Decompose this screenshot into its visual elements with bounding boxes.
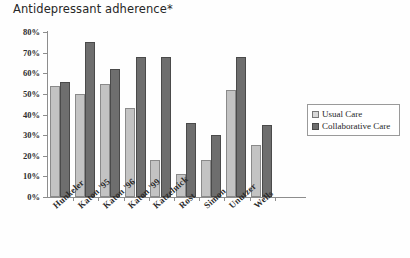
legend-swatch-icon bbox=[312, 123, 319, 130]
chart-legend: Usual CareCollaborative Care bbox=[307, 104, 400, 136]
x-tick-mark bbox=[124, 197, 125, 201]
bar-usual-care bbox=[226, 90, 236, 197]
bar-collaborative-care bbox=[136, 57, 146, 197]
legend-label: Collaborative Care bbox=[322, 121, 390, 132]
legend-label: Usual Care bbox=[322, 109, 362, 120]
y-tick-label: 70% bbox=[10, 48, 40, 58]
x-tick-mark bbox=[250, 197, 251, 201]
bar-collaborative-care bbox=[85, 42, 95, 197]
y-tick-label: 0% bbox=[10, 192, 40, 202]
y-tick-mark bbox=[43, 94, 47, 95]
x-tick-mark bbox=[224, 197, 225, 201]
bar-collaborative-care bbox=[186, 123, 196, 197]
y-tick-mark bbox=[43, 156, 47, 157]
x-tick-mark bbox=[98, 197, 99, 201]
bar-collaborative-care bbox=[236, 57, 246, 197]
y-tick-mark bbox=[43, 53, 47, 54]
x-tick-mark bbox=[149, 197, 150, 201]
y-tick-mark bbox=[43, 73, 47, 74]
x-tick-mark bbox=[174, 197, 175, 201]
y-tick-label: 40% bbox=[10, 110, 40, 120]
bar-collaborative-care bbox=[110, 69, 120, 197]
x-tick-mark bbox=[199, 197, 200, 201]
bar-collaborative-care bbox=[161, 57, 171, 197]
y-tick-mark bbox=[43, 176, 47, 177]
legend-item: Usual Care bbox=[312, 108, 395, 120]
y-tick-label: 60% bbox=[10, 68, 40, 78]
x-tick-mark bbox=[275, 197, 276, 201]
bar-usual-care bbox=[50, 86, 60, 197]
y-tick-label: 30% bbox=[10, 130, 40, 140]
y-axis-line bbox=[47, 31, 48, 198]
bar-usual-care bbox=[201, 160, 211, 197]
y-tick-label: 10% bbox=[10, 171, 40, 181]
y-tick-mark bbox=[43, 135, 47, 136]
bar-collaborative-care bbox=[60, 82, 70, 198]
y-tick-label: 50% bbox=[10, 89, 40, 99]
legend-item: Collaborative Care bbox=[312, 120, 395, 132]
y-tick-mark bbox=[43, 32, 47, 33]
y-tick-mark bbox=[43, 197, 47, 198]
y-tick-label: 80% bbox=[10, 27, 40, 37]
x-tick-mark bbox=[73, 197, 74, 201]
y-tick-mark bbox=[43, 115, 47, 116]
y-tick-label: 20% bbox=[10, 151, 40, 161]
antidepressant-adherence-chart: Antidepressant adherence* 80%70%60%50%40… bbox=[0, 0, 410, 258]
legend-swatch-icon bbox=[312, 111, 319, 118]
bar-collaborative-care bbox=[262, 125, 272, 197]
